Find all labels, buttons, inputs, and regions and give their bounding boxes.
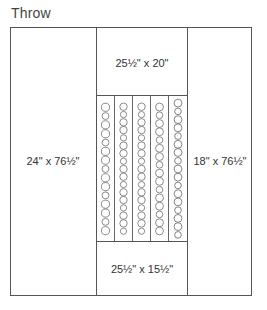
left-panel-label: 24" x 76½" <box>26 155 79 167</box>
strip-3 <box>133 96 151 241</box>
circles-pattern-icon <box>97 96 114 241</box>
right-panel-label: 18" x 76½" <box>193 155 246 167</box>
circles-pattern-icon <box>169 96 187 241</box>
bottom-center-label: 25½" x 15½" <box>111 263 173 275</box>
circles-pattern-icon <box>133 96 150 241</box>
strip-panel <box>97 96 187 241</box>
strip-4 <box>151 96 169 241</box>
strip-2 <box>115 96 133 241</box>
diagram-title: Throw <box>11 5 51 21</box>
strip-5 <box>169 96 187 241</box>
top-center-label: 25½" x 20" <box>115 57 168 69</box>
circles-pattern-icon <box>115 96 132 241</box>
strip-1 <box>97 96 115 241</box>
circles-pattern-icon <box>151 96 168 241</box>
